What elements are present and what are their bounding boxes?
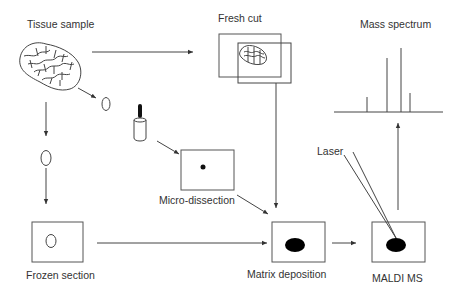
- label-matrix-deposition: Matrix deposition: [247, 268, 327, 280]
- workflow-diagram: Tissue sample Fresh cut Mass spectrum Mi…: [0, 0, 458, 295]
- maldi-sample-spot-icon: [386, 238, 406, 252]
- micro-dissection-slide: [181, 150, 234, 190]
- micro-dissection-tool-icon: [134, 104, 146, 141]
- arrow-to-micro-dissection: [157, 141, 179, 154]
- dissected-spot-icon: [201, 165, 206, 170]
- biopsy-pellet-icon: [102, 98, 110, 111]
- arrow-micro-to-matrix: [237, 195, 268, 214]
- arrow-to-biopsy: [78, 88, 96, 98]
- label-maldi-ms: MALDI MS: [372, 272, 423, 284]
- label-fresh-cut: Fresh cut: [218, 12, 262, 24]
- label-tissue-sample: Tissue sample: [27, 18, 94, 30]
- frozen-section-slide: [32, 222, 83, 262]
- label-laser: Laser: [317, 145, 344, 157]
- label-mass-spectrum: Mass spectrum: [360, 18, 431, 30]
- label-micro-dissection: Micro-dissection: [159, 194, 235, 206]
- label-frozen-section: Frozen section: [26, 269, 95, 281]
- matrix-spot-icon: [285, 238, 305, 252]
- section-pellet-icon: [41, 151, 51, 166]
- laser-beam-1: [344, 155, 396, 238]
- tissue-sample-icon: [20, 43, 81, 90]
- mass-spectrum-plot: [334, 48, 443, 112]
